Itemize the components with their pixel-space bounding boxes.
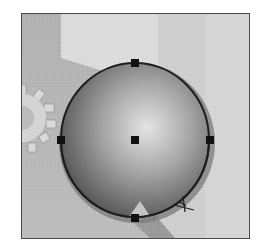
- canvas-frame[interactable]: Ellipse tool canvas: [21, 13, 250, 239]
- handle-top[interactable]: [131, 59, 139, 67]
- handle-bottom[interactable]: [131, 214, 139, 222]
- drawing-canvas[interactable]: [22, 14, 249, 238]
- handle-right[interactable]: [206, 136, 214, 144]
- handle-center[interactable]: [131, 136, 139, 144]
- handle-left[interactable]: [57, 136, 65, 144]
